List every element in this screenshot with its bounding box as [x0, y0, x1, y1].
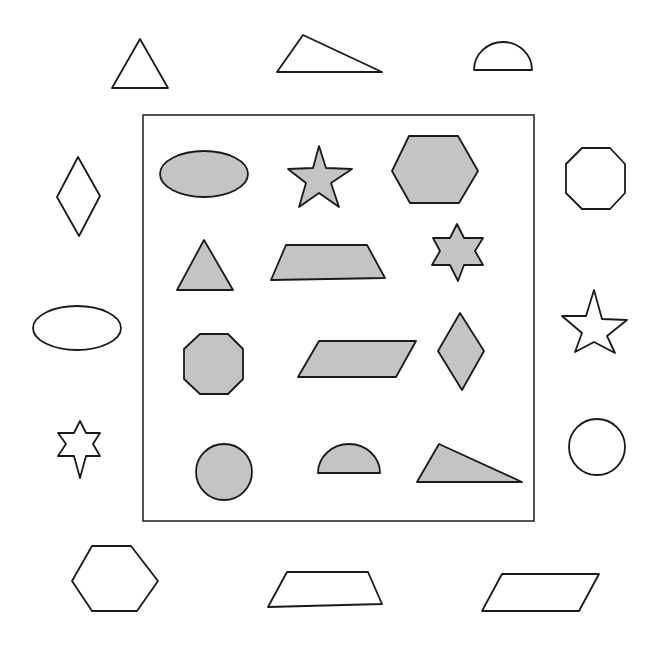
inner-octagon	[184, 334, 243, 394]
inner-five-point-star	[288, 146, 352, 207]
outer-bottom-hexagon	[72, 546, 158, 611]
inner-ellipse	[160, 151, 248, 197]
inner-circle	[196, 444, 252, 500]
outer-bottom-trapezoid	[268, 572, 382, 607]
inner-trapezoid	[271, 245, 385, 280]
outer-right-circle	[569, 419, 625, 475]
outer-left-six-point-star	[58, 421, 100, 478]
inner-rhombus	[438, 313, 484, 390]
inner-semicircle	[318, 444, 380, 473]
outer-top-scalene-triangle	[277, 35, 382, 72]
outer-bottom-parallelogram	[482, 574, 599, 611]
inner-right-triangle	[417, 444, 522, 482]
inner-six-point-star	[432, 224, 483, 281]
outer-right-five-point-star	[562, 290, 627, 353]
outer-left-ellipse	[33, 306, 121, 350]
shape-matching-diagram	[0, 0, 660, 647]
outer-top-triangle	[112, 39, 168, 88]
outer-right-octagon	[566, 148, 625, 209]
inner-equilateral-triangle	[177, 240, 233, 290]
inner-hexagon	[392, 136, 478, 203]
outer-top-semicircle	[474, 42, 532, 70]
outer-left-rhombus	[57, 157, 100, 236]
inner-parallelogram	[298, 341, 416, 377]
